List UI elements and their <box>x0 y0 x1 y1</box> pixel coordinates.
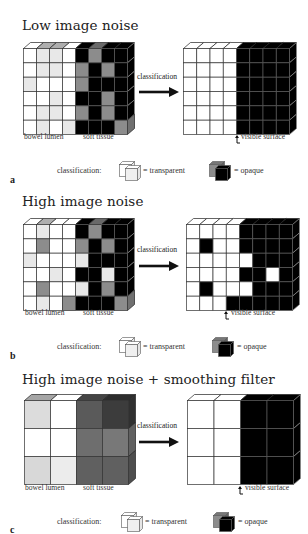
panel-c-label-bowel-lumen: bowel lumen <box>25 483 64 492</box>
panel-b-legend-opaque: = opaque <box>237 342 267 351</box>
panel-c-arrow-icon <box>139 432 179 451</box>
panel-c-legend-opaque: = opaque <box>238 517 268 526</box>
panel-b-legend-transparent: = transparent <box>143 342 185 351</box>
panel-c-output-voxel-block <box>187 394 301 485</box>
panel-c-surface-pointer-icon <box>238 481 244 500</box>
panel-a-visible-surface-label: visible surface <box>241 132 285 141</box>
panel-a-legend-prefix: classification: <box>57 166 101 175</box>
panel-a-title: Low image noise <box>22 17 139 33</box>
panel-c-legend-transparent: = transparent <box>145 517 187 526</box>
panel-a-label-soft-tissue: soft tissue <box>83 132 114 141</box>
panel-a-classification-label: classification <box>137 72 177 81</box>
opaque-cube-icon <box>212 511 236 534</box>
panel-a-arrow-icon <box>139 82 179 101</box>
panel-c-letter: c <box>10 524 14 534</box>
panel-b-arrow-icon <box>139 256 179 275</box>
panel-c-input-voxel-block <box>24 394 136 485</box>
transparent-cube-icon <box>118 336 142 362</box>
panel-b-surface-pointer-icon <box>224 306 230 325</box>
panel-a-output-voxel-block <box>183 42 297 135</box>
panel-b-input-voxel-block <box>23 218 135 311</box>
panel-b-title: High image noise <box>22 193 143 209</box>
panel-c-visible-surface-label: visible surface <box>245 483 289 492</box>
panel-b-visible-surface-label: visible surface <box>231 308 275 317</box>
panel-b-classification-label: classification <box>137 245 177 254</box>
panel-a-legend-opaque: = opaque <box>234 166 264 175</box>
panel-c-title: High image noise + smoothing filter <box>22 371 275 387</box>
panel-a-label-bowel-lumen: bowel lumen <box>24 132 63 141</box>
opaque-cube-icon <box>208 160 232 186</box>
panel-c-legend-prefix: classification: <box>57 517 101 526</box>
panel-c-classification-label: classification <box>137 421 177 430</box>
panel-b-letter: b <box>10 350 16 361</box>
panel-a-legend-transparent: = transparent <box>143 166 185 175</box>
transparent-cube-icon <box>118 160 142 186</box>
panel-b-label-soft-tissue: soft tissue <box>83 308 114 317</box>
panel-b-legend-prefix: classification: <box>57 342 101 351</box>
panel-a-input-voxel-block <box>23 42 135 135</box>
panel-b-label-bowel-lumen: bowel lumen <box>25 308 64 317</box>
panel-b-output-voxel-block <box>186 218 300 311</box>
opaque-cube-icon <box>211 336 235 362</box>
panel-c-label-soft-tissue: soft tissue <box>83 483 114 492</box>
transparent-cube-icon <box>120 511 144 534</box>
panel-a-letter: a <box>10 174 15 185</box>
